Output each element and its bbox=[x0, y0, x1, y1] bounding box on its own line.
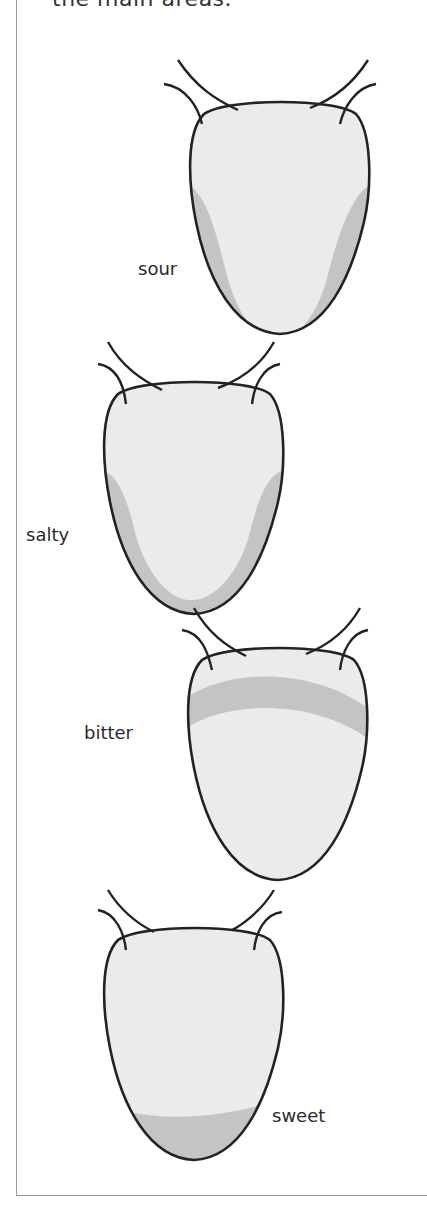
tongue-bitter bbox=[182, 608, 370, 880]
label-salty: salty bbox=[26, 524, 69, 545]
label-sweet: sweet bbox=[272, 1105, 325, 1126]
tongue-sweet bbox=[98, 890, 286, 1178]
tongue-salty bbox=[98, 342, 286, 632]
label-bitter: bitter bbox=[84, 722, 133, 743]
label-sour: sour bbox=[138, 258, 177, 279]
tongue-sour bbox=[164, 60, 376, 342]
